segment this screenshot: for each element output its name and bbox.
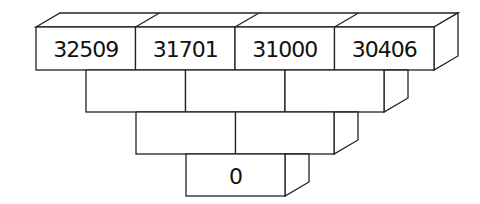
cell-value: 31701 [153, 37, 218, 62]
side-face [334, 112, 358, 154]
number-pyramid: 32509 31701 31000 30406 0 [0, 0, 480, 204]
row-4: 0 [186, 154, 285, 196]
cell-value: 32509 [53, 37, 118, 62]
cell-value: 31000 [252, 37, 317, 62]
cell[interactable] [236, 112, 335, 154]
cell[interactable] [136, 112, 236, 154]
row-1: 32509 31701 31000 30406 [36, 27, 434, 70]
cell[interactable] [186, 70, 286, 112]
cell[interactable] [285, 70, 384, 112]
cell-value: 30406 [352, 37, 417, 62]
side-face [384, 70, 408, 112]
cell[interactable] [86, 70, 186, 112]
row-3 [136, 112, 334, 154]
cell-value: 0 [229, 164, 242, 189]
side-face [285, 154, 309, 196]
row-2 [86, 70, 384, 112]
